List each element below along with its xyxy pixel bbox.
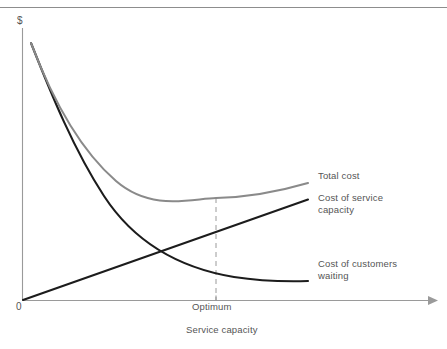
- x-axis-title: Service capacity: [186, 324, 258, 336]
- series-curve-total-cost: [31, 43, 308, 201]
- series-label-cost-of-service-capacity-line1: Cost of service: [318, 192, 383, 204]
- x-axis-arrow-icon: [428, 296, 438, 305]
- x-axis-optimum-label: Optimum: [192, 301, 232, 313]
- series-label-cost-of-customers-waiting: Cost of customerswaiting: [318, 258, 397, 281]
- series-curve-cost-of-service-capacity: [23, 200, 308, 301]
- series-curve-cost-of-customers-waiting: [31, 43, 308, 281]
- series-label-cost-of-service-capacity: Cost of servicecapacity: [318, 192, 383, 215]
- x-axis-origin-label: 0: [16, 301, 22, 313]
- series-label-cost-of-service-capacity-line2: capacity: [318, 204, 383, 216]
- series-label-cost-of-customers-waiting-line2: waiting: [318, 270, 397, 282]
- chart-figure: $ 0 Optimum Service capacity Total cost …: [0, 0, 447, 349]
- chart-plot-area: [0, 0, 447, 349]
- y-axis-label: $: [17, 15, 23, 27]
- series-label-cost-of-customers-waiting-line1: Cost of customers: [318, 258, 397, 270]
- series-label-total-cost: Total cost: [318, 170, 360, 182]
